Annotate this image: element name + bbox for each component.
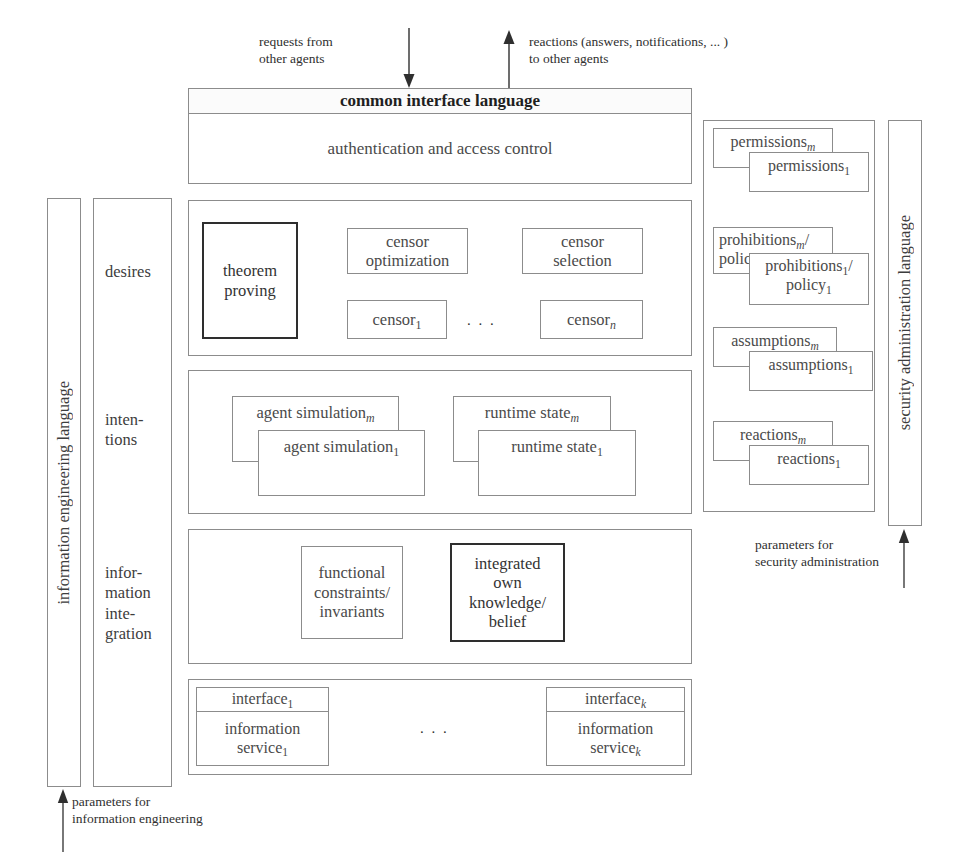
runtime-state-1-box: runtime state1 xyxy=(478,430,636,496)
censor-selection-box: censor selection xyxy=(522,228,643,274)
interface-1-box: interface1 xyxy=(196,687,329,712)
agent-simulation-1-subscript: 1 xyxy=(393,445,399,459)
censor-1-box: censor1 xyxy=(347,300,447,339)
permissions-m-label: permissions xyxy=(731,133,807,150)
functional-constraints-box: functional constraints/ invariants xyxy=(301,546,403,639)
service-ellipsis: . . . xyxy=(420,719,449,738)
reactions-1-box: reactions1 xyxy=(749,445,869,485)
censor-n-subscript: n xyxy=(610,318,616,332)
information-service-k-label: information service xyxy=(578,720,654,756)
interface-1-subscript: 1 xyxy=(288,698,294,710)
permissions-m-subscript: m xyxy=(807,141,815,153)
interface-k-subscript: k xyxy=(641,698,646,710)
integrated-own-knowledge-box: integrated own knowledge/ belief xyxy=(450,543,565,642)
assumptions-m-subscript: m xyxy=(810,340,818,352)
functional-constraints-label: functional constraints/ invariants xyxy=(314,563,390,621)
reactions-m-subscript: m xyxy=(798,434,806,446)
permissions-1-box: permissions1 xyxy=(749,152,869,192)
aspect-column xyxy=(93,198,172,787)
information-service-1-box: information service1 xyxy=(196,711,329,766)
information-service-k-subscript: k xyxy=(636,746,641,758)
reactions-m-label: reactions xyxy=(740,426,798,443)
annotation-reactions-to-other-agents: reactions (answers, notifications, ... )… xyxy=(529,34,829,68)
assumptions-1-box: assumptions1 xyxy=(749,351,873,391)
censor-1-subscript: 1 xyxy=(416,318,422,332)
annotation-parameters-security-administration: parameters for security administration xyxy=(755,537,955,571)
assumptions-1-label: assumptions xyxy=(769,356,848,373)
censor-optimization-box: censor optimization xyxy=(347,228,468,274)
censor-selection-label: censor selection xyxy=(553,232,612,271)
security-administration-language-label: security administration language xyxy=(895,215,915,430)
information-engineering-language-label: information engineering language xyxy=(54,381,74,605)
security-administration-language-bar: security administration language xyxy=(888,120,922,526)
interface-1-label: interface xyxy=(232,690,288,707)
prohibitions-1-subscript: 1 xyxy=(843,265,849,277)
integrated-own-knowledge-label: integrated own knowledge/ belief xyxy=(469,554,546,632)
policy-1-subscript: 1 xyxy=(826,284,832,296)
permissions-1-subscript: 1 xyxy=(844,165,850,177)
runtime-state-m-subscript: m xyxy=(571,411,580,425)
aspect-item-intentions: inten- tions xyxy=(105,410,144,451)
arrow-reactions-out xyxy=(495,28,525,90)
figure-canvas: requests from other agents reactions (an… xyxy=(0,0,963,865)
prohibitions-m-subscript: m xyxy=(796,239,804,251)
reactions-1-subscript: 1 xyxy=(835,458,841,470)
reactions-1-label: reactions xyxy=(777,450,835,467)
interface-k-label: interface xyxy=(585,690,641,707)
runtime-state-m-label: runtime state xyxy=(485,403,571,422)
prohibitions-1-policy-box: prohibitions1/ policy1 xyxy=(749,253,869,305)
prohibitions-1-label: prohibitions xyxy=(765,257,842,274)
agent-simulation-1-box: agent simulation1 xyxy=(258,430,425,496)
aspect-item-information-integration: infor- mation inte- gration xyxy=(105,563,152,645)
authentication-access-control-panel: authentication and access control xyxy=(188,113,692,184)
agent-simulation-1-label: agent simulation xyxy=(284,437,394,456)
annotation-parameters-information-engineering: parameters for information engineering xyxy=(72,794,302,828)
permissions-1-label: permissions xyxy=(768,157,844,174)
assumptions-1-subscript: 1 xyxy=(848,364,854,376)
aspect-item-desires: desires xyxy=(105,262,151,282)
integration-layer-panel xyxy=(188,529,692,664)
runtime-state-1-label: runtime state xyxy=(511,437,597,456)
information-service-1-subscript: 1 xyxy=(282,746,288,758)
information-service-1-label: information service xyxy=(225,720,301,756)
prohibitions-m-label: prohibitions xyxy=(719,231,796,248)
censor-optimization-label: censor optimization xyxy=(366,232,449,271)
runtime-state-1-subscript: 1 xyxy=(597,445,603,459)
interface-k-box: interfacek xyxy=(546,687,685,712)
censor-ellipsis: . . . xyxy=(467,311,496,330)
censor-1-label: censor xyxy=(372,310,415,329)
annotation-requests-from-other-agents: requests from other agents xyxy=(259,34,389,68)
theorem-proving-box: theorem proving xyxy=(202,222,298,339)
censor-n-label: censor xyxy=(567,310,610,329)
common-interface-language-header: common interface language xyxy=(188,88,692,114)
theorem-proving-label: theorem proving xyxy=(223,261,277,300)
censor-n-box: censorn xyxy=(540,300,643,339)
agent-simulation-m-subscript: m xyxy=(366,411,375,425)
agent-simulation-m-label: agent simulation xyxy=(256,403,366,422)
authentication-access-control-label: authentication and access control xyxy=(189,114,691,183)
arrow-requests-in xyxy=(395,28,425,90)
information-service-k-box: information servicek xyxy=(546,711,685,766)
assumptions-m-label: assumptions xyxy=(731,332,810,349)
information-engineering-language-bar: information engineering language xyxy=(47,198,81,787)
